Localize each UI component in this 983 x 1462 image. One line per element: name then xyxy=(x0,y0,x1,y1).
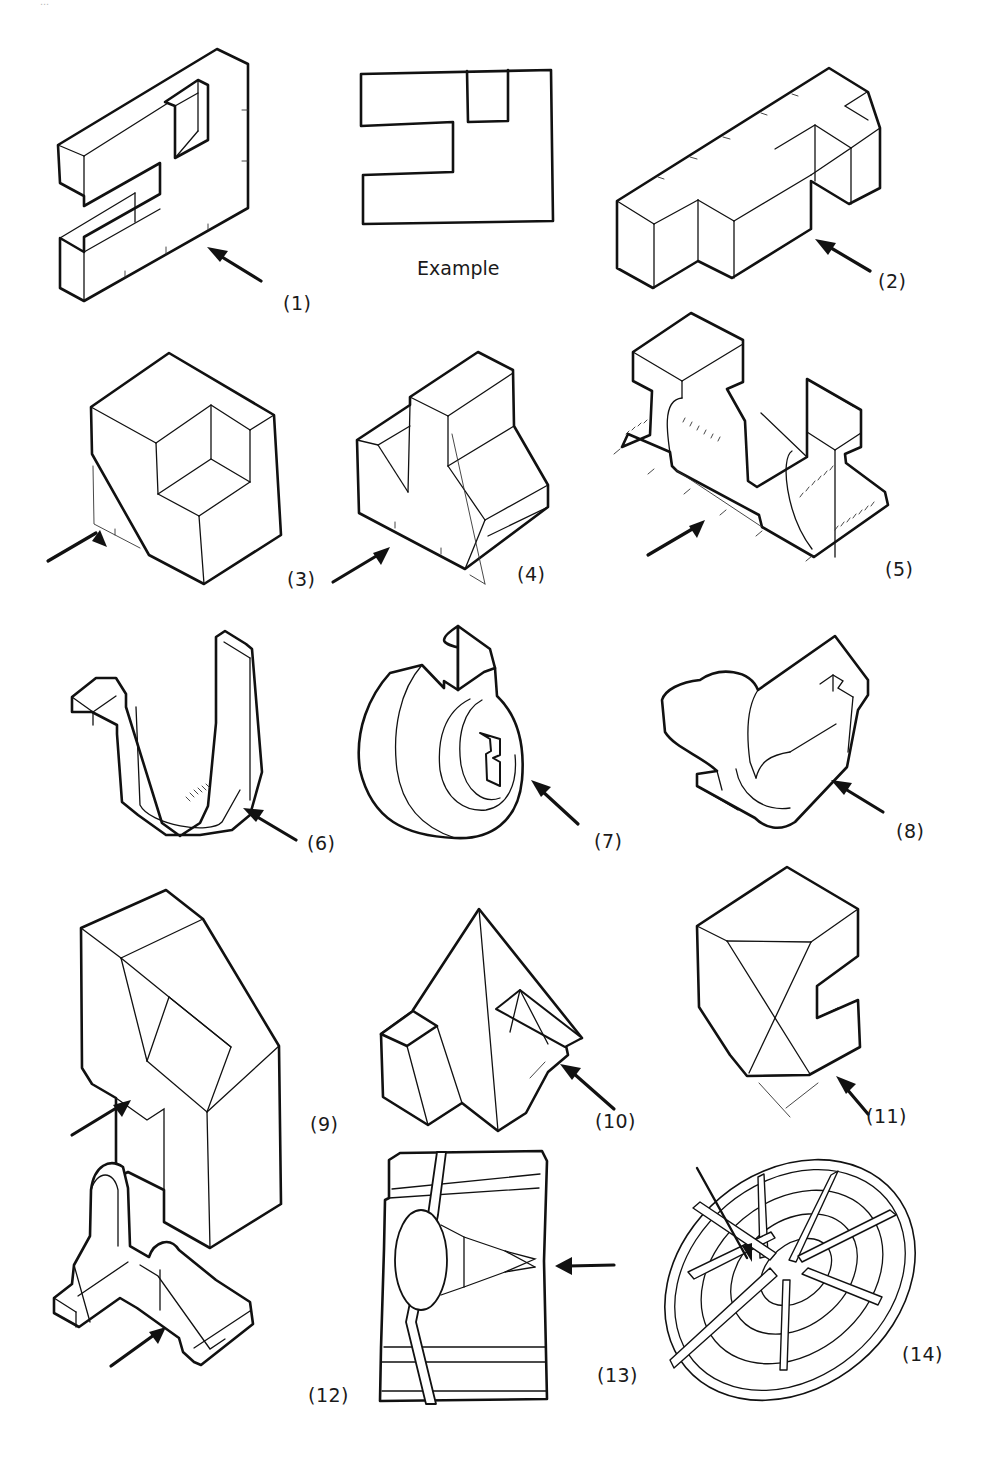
figure-8-drawing xyxy=(662,636,868,828)
figure-label-1: (1) xyxy=(283,292,311,314)
figure-10-drawing xyxy=(381,909,582,1131)
figure-4-direction-arrow xyxy=(333,547,390,582)
figure-5-direction-arrow xyxy=(648,520,705,555)
figure-label-6: (6) xyxy=(307,832,335,854)
figure-11-drawing xyxy=(697,867,860,1117)
figure-14-drawing xyxy=(616,1110,963,1450)
figure-label-11: (11) xyxy=(866,1105,907,1127)
figure-label-9: (9) xyxy=(310,1113,338,1135)
figure-label-4: (4) xyxy=(517,563,545,585)
figure-label-8: (8) xyxy=(896,820,924,842)
figure-label-2: (2) xyxy=(878,270,906,292)
worksheet-drawings xyxy=(0,0,983,1462)
figure-label-7: (7) xyxy=(594,830,622,852)
figure-label-12: (12) xyxy=(308,1384,349,1406)
figure-13-drawing xyxy=(380,1151,547,1404)
figure-13-direction-arrow xyxy=(555,1257,614,1275)
figure-7-drawing xyxy=(359,626,523,838)
figure-5-drawing xyxy=(614,313,888,561)
figure-6-drawing xyxy=(72,631,262,836)
figure-10-direction-arrow xyxy=(560,1064,614,1109)
figure-2-direction-arrow xyxy=(815,239,870,271)
figure-label-14: (14) xyxy=(902,1343,943,1365)
figure-label-5: (5) xyxy=(885,558,913,580)
figure-7-direction-arrow xyxy=(531,780,578,824)
figure-label-13: (13) xyxy=(597,1364,638,1386)
figure-1-drawing xyxy=(58,49,248,301)
figure-11-direction-arrow xyxy=(836,1076,868,1114)
figure-3-drawing xyxy=(91,353,281,584)
example-orthographic-view xyxy=(361,70,553,224)
example-caption: Example xyxy=(417,257,499,279)
figure-label-10: (10) xyxy=(595,1110,636,1132)
figure-3-direction-arrow xyxy=(48,530,107,561)
figure-label-3: (3) xyxy=(287,568,315,590)
figure-12-direction-arrow xyxy=(111,1327,166,1366)
figure-1-direction-arrow xyxy=(207,247,261,281)
figure-8-direction-arrow xyxy=(831,780,883,812)
figure-6-direction-arrow xyxy=(243,808,296,840)
